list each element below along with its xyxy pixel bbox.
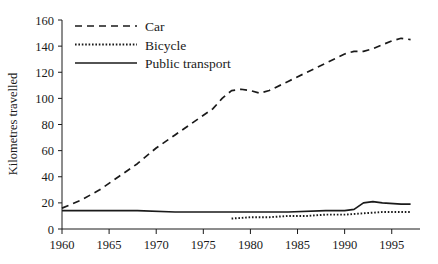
legend-label-public-transport: Public transport: [145, 56, 231, 71]
x-tick-label: 1990: [332, 238, 357, 252]
series-line-bicycle: [232, 212, 411, 219]
y-tick-label: 140: [35, 40, 54, 54]
y-axis-title: Kilometres travelled: [6, 72, 20, 175]
legend-label-bicycle: Bicycle: [145, 38, 186, 53]
x-tick-label: 1995: [379, 238, 404, 252]
y-tick-label: 80: [42, 118, 55, 132]
chart-canvas: 0204060801001201401601960196519701975198…: [0, 0, 438, 264]
line-chart: 0204060801001201401601960196519701975198…: [0, 0, 438, 264]
x-tick-label: 1985: [285, 238, 310, 252]
legend-label-car: Car: [145, 19, 165, 34]
x-tick-label: 1965: [97, 238, 122, 252]
x-tick-label: 1960: [50, 238, 75, 252]
x-tick-label: 1975: [191, 238, 216, 252]
y-tick-label: 0: [48, 223, 54, 237]
x-tick-label: 1970: [144, 238, 169, 252]
x-tick-label: 1980: [238, 238, 263, 252]
y-tick-label: 160: [35, 14, 54, 28]
y-tick-label: 40: [42, 170, 55, 184]
series-line-public-transport: [62, 202, 411, 212]
y-tick-label: 60: [42, 144, 55, 158]
y-tick-label: 120: [35, 66, 54, 80]
y-tick-label: 20: [42, 196, 55, 210]
y-tick-label: 100: [35, 92, 54, 106]
